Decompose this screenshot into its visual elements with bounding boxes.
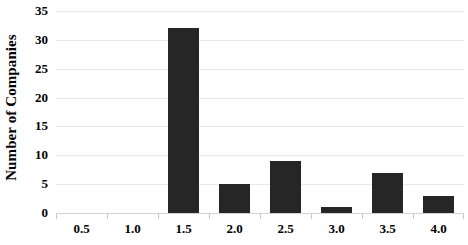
y-tick-label: 0 xyxy=(42,205,49,221)
bar xyxy=(168,28,200,213)
y-tick-label: 20 xyxy=(35,90,48,106)
y-axis-tick-labels: 05101520253035 xyxy=(22,0,52,245)
x-tick-label: 4.0 xyxy=(430,221,446,237)
y-tick-label: 10 xyxy=(35,147,48,163)
x-tick-label: 1.0 xyxy=(124,221,140,237)
bar-chart: Number of Companies 05101520253035 0.51.… xyxy=(0,0,468,245)
bars-group xyxy=(56,11,464,213)
y-axis-title-text: Number of Companies xyxy=(3,34,20,181)
x-tick-label: 3.0 xyxy=(328,221,344,237)
y-tick-label: 5 xyxy=(42,176,49,192)
x-tick-label: 2.5 xyxy=(277,221,293,237)
bar xyxy=(372,173,404,213)
y-tick-label: 35 xyxy=(35,3,48,19)
x-tick-label: 2.0 xyxy=(226,221,242,237)
y-tick-label: 25 xyxy=(35,61,48,77)
x-axis-tick-labels: 0.51.01.52.02.53.03.54.0 xyxy=(56,219,464,245)
bar xyxy=(423,196,455,213)
y-tick-label: 30 xyxy=(35,32,48,48)
x-tick-label: 1.5 xyxy=(175,221,191,237)
bar xyxy=(219,184,251,213)
x-tick-label: 0.5 xyxy=(73,221,89,237)
y-tick-label: 15 xyxy=(35,118,48,134)
plot-area xyxy=(56,11,464,213)
x-tick-label: 3.5 xyxy=(379,221,395,237)
bar xyxy=(270,161,302,213)
y-axis-title: Number of Companies xyxy=(0,0,22,215)
